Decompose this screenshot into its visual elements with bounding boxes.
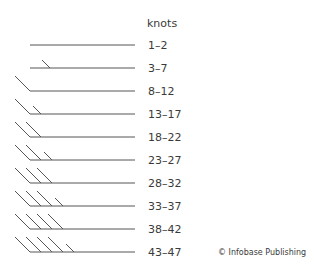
speed-label: 3–7	[148, 62, 168, 75]
short-barb	[55, 198, 63, 206]
speed-label: 43–47	[148, 246, 182, 259]
long-barb	[15, 99, 30, 114]
wind-barb-row	[15, 214, 135, 229]
speed-label: 8–12	[148, 85, 175, 98]
wind-barb-row	[15, 99, 135, 114]
wind-barb-row	[15, 237, 135, 252]
wind-barb-row	[15, 76, 135, 91]
units-header: knots	[147, 17, 177, 30]
short-barb	[66, 244, 74, 252]
wind-barb-row	[15, 145, 135, 160]
speed-label: 38–42	[148, 223, 182, 236]
wind-barb-row	[30, 60, 135, 68]
wind-barb-row	[15, 122, 135, 137]
wind-barb-row	[15, 168, 135, 183]
long-barb	[15, 76, 30, 91]
copyright-credit: © Infobase Publishing	[218, 248, 306, 257]
short-barb	[42, 60, 50, 68]
speed-label: 33–37	[148, 200, 182, 213]
speed-label: 23–27	[148, 154, 182, 167]
wind-barb-row	[15, 191, 135, 206]
speed-label: 1–2	[148, 39, 168, 52]
speed-label: 13–17	[148, 108, 182, 121]
short-barb	[33, 106, 41, 114]
speed-label: 28–32	[148, 177, 182, 190]
speed-label: 18–22	[148, 131, 182, 144]
short-barb	[44, 152, 52, 160]
